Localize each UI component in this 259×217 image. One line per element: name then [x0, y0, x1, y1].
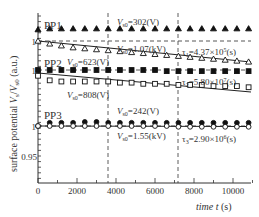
circle-marker: [235, 124, 240, 129]
square-marker: [94, 79, 99, 84]
triangle-marker: [164, 26, 170, 31]
square-marker: [246, 85, 251, 90]
square-marker: [129, 68, 134, 73]
circle-marker: [82, 124, 87, 129]
x-tick-label-0: 0: [36, 186, 41, 196]
square-marker: [118, 80, 123, 85]
x-ticks: [38, 178, 253, 183]
annot-pp1-open-vs0: Vs0=1.07(kV): [117, 44, 166, 55]
square-marker: [71, 68, 76, 73]
circle-marker: [59, 124, 64, 129]
x-axis-label: time t (s): [196, 201, 232, 213]
triangle-marker: [70, 26, 76, 31]
square-marker: [82, 68, 87, 73]
triangle-marker: [94, 26, 100, 31]
square-marker: [223, 69, 228, 74]
square-marker: [47, 78, 52, 83]
circle-marker: [211, 124, 216, 129]
y-axis-label: surface potential Vs/Vs0 (a.u.): [8, 56, 21, 172]
circle-marker: [36, 124, 41, 129]
annot-tau3: τ3=2.90×106(s): [182, 134, 236, 145]
circle-marker: [141, 124, 146, 129]
x-tick-label-2000: 2000: [68, 186, 87, 196]
triangle-marker: [82, 26, 88, 31]
circle-marker: [246, 124, 251, 129]
square-marker: [82, 79, 87, 84]
x-tick-label-4000: 4000: [107, 186, 126, 196]
square-marker: [71, 79, 76, 84]
triangle-marker: [175, 26, 181, 31]
circle-marker: [153, 124, 158, 129]
triangle-marker: [234, 26, 240, 31]
annot-tau1: τ1=4.37×105(s): [182, 47, 236, 58]
x-tick-label-10000: 10000: [222, 186, 245, 196]
chart-canvas: PP1 PP2 PP3 Vs0=302(V) Vs0=1.07(kV) Vs0=…: [0, 0, 259, 217]
square-marker: [141, 81, 146, 86]
square-marker: [164, 69, 169, 74]
label-pp1: PP1: [44, 19, 62, 31]
circle-marker: [199, 124, 204, 129]
square-marker: [176, 83, 181, 88]
triangle-marker: [199, 26, 205, 31]
square-marker: [59, 79, 64, 84]
square-marker: [106, 68, 111, 73]
square-marker: [36, 68, 41, 73]
annot-tau2: τ2=5.80×107(s): [182, 77, 236, 88]
y-tick-label-095: 0.95: [21, 152, 37, 162]
series-pp2-filled-squares: [36, 68, 251, 74]
circle-marker: [223, 124, 228, 129]
square-marker: [153, 68, 158, 73]
label-pp3: PP3: [44, 109, 62, 121]
circle-marker: [94, 124, 99, 129]
circle-marker: [188, 124, 193, 129]
annot-pp3-open-vs0: Vs0=1.55(kV): [117, 131, 166, 142]
square-marker: [129, 80, 134, 85]
triangle-marker: [222, 26, 228, 31]
y-tick-label-pp2: 1: [32, 66, 37, 76]
x-tick-label-6000: 6000: [146, 186, 165, 196]
square-marker: [235, 69, 240, 74]
label-pp2: PP2: [44, 57, 62, 69]
triangle-marker: [246, 26, 252, 31]
square-marker: [106, 79, 111, 84]
annot-pp3-filled-vs0: Vs0=242(V): [117, 106, 159, 117]
square-marker: [118, 68, 123, 73]
square-marker: [36, 73, 41, 78]
triangle-marker: [211, 26, 217, 31]
annot-pp2-filled-vs0: Vs0=623(V): [67, 57, 109, 68]
square-marker: [188, 69, 193, 74]
square-marker: [199, 69, 204, 74]
circle-marker: [129, 124, 134, 129]
square-marker: [211, 69, 216, 74]
square-marker: [153, 81, 158, 86]
triangle-marker: [105, 26, 111, 31]
circle-marker: [71, 124, 76, 129]
circle-marker: [118, 124, 123, 129]
square-marker: [141, 68, 146, 73]
triangle-marker: [187, 26, 193, 31]
circle-marker: [47, 124, 52, 129]
x-tick-label-8000: 8000: [185, 186, 204, 196]
y-tick-label-pp3: 1: [32, 122, 37, 132]
annot-pp2-open-vs0: Vs0=808(V): [67, 90, 109, 101]
circle-marker: [164, 124, 169, 129]
square-marker: [94, 68, 99, 73]
square-marker: [164, 81, 169, 86]
circle-marker: [176, 124, 181, 129]
square-marker: [246, 69, 251, 74]
triangle-marker: [70, 45, 76, 50]
square-marker: [176, 69, 181, 74]
circle-marker: [106, 124, 111, 129]
triangle-marker: [175, 53, 181, 58]
annot-pp1-filled-vs0: Vs0=302(V): [117, 17, 159, 28]
y-tick-label-pp1: 1: [32, 37, 37, 47]
